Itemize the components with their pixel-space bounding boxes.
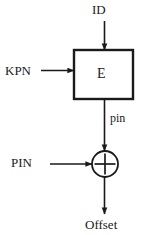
- label-id-input: ID: [92, 3, 106, 16]
- label-pin-input: PIN: [11, 156, 32, 169]
- block-diagram: ID KPN E pin PIN Offset: [0, 0, 144, 235]
- label-pin-edge: pin: [110, 112, 125, 124]
- label-kpn-input: KPN: [5, 64, 31, 77]
- label-offset-output: Offset: [85, 218, 117, 231]
- label-encrypt-block: E: [97, 67, 106, 81]
